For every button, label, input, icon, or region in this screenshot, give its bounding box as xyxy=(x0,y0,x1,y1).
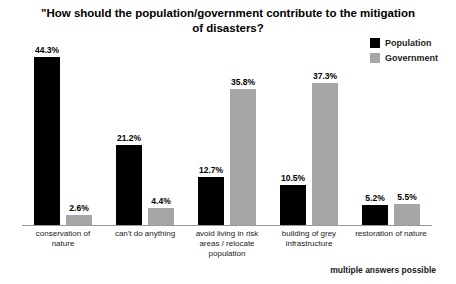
bar-group: 12.7% 35.8% xyxy=(186,36,268,225)
bar-population: 10.5% xyxy=(280,36,306,225)
bar-rect xyxy=(34,57,60,225)
bar-group: 44.3% 2.6% xyxy=(22,36,104,225)
bar-value-label: 35.8% xyxy=(231,77,255,87)
bar-value-label: 5.2% xyxy=(365,193,384,203)
bar-value-label: 12.7% xyxy=(199,165,223,175)
bar-government: 4.4% xyxy=(148,36,174,225)
bar-value-label: 10.5% xyxy=(281,173,305,183)
chart-annotation: multiple answers possible xyxy=(330,265,436,275)
bar-group: 10.5% 37.3% xyxy=(268,36,350,225)
x-tick-label: can't do anything xyxy=(104,229,186,259)
bar-population: 44.3% xyxy=(34,36,60,225)
bar-value-label: 5.5% xyxy=(397,192,416,202)
bar-group: 5.2% 5.5% xyxy=(350,36,432,225)
bar-population: 21.2% xyxy=(116,36,142,225)
bar-rect xyxy=(230,89,256,225)
bar-rect xyxy=(362,205,388,225)
bar-population: 12.7% xyxy=(198,36,224,225)
x-tick-label: building of grey infrastructure xyxy=(268,229,350,259)
x-axis-tick-labels: conservation of nature can't do anything… xyxy=(22,229,432,259)
bar-rect xyxy=(312,83,338,225)
bar-groups: 44.3% 2.6% 21.2% 4.4% xyxy=(22,36,432,225)
chart-title: "How should the population/government co… xyxy=(40,6,416,36)
bar-group: 21.2% 4.4% xyxy=(104,36,186,225)
x-axis-line xyxy=(22,225,432,226)
bar-value-label: 44.3% xyxy=(35,45,59,55)
plot-area: 44.3% 2.6% 21.2% 4.4% xyxy=(22,36,432,226)
x-tick-label: conservation of nature xyxy=(22,229,104,259)
bar-value-label: 21.2% xyxy=(117,133,141,143)
bar-rect xyxy=(280,185,306,225)
bar-rect xyxy=(116,145,142,225)
x-tick-label: restoration of nature xyxy=(350,229,432,259)
chart-container: "How should the population/government co… xyxy=(0,0,456,284)
bar-rect xyxy=(394,204,420,225)
bar-government: 35.8% xyxy=(230,36,256,225)
bar-government: 5.5% xyxy=(394,36,420,225)
bar-government: 2.6% xyxy=(66,36,92,225)
bar-value-label: 2.6% xyxy=(69,203,88,213)
bar-value-label: 4.4% xyxy=(151,196,170,206)
bar-rect xyxy=(66,215,92,225)
bar-value-label: 37.3% xyxy=(313,71,337,81)
bar-rect xyxy=(148,208,174,225)
bar-rect xyxy=(198,177,224,225)
x-tick-label: avoid living in risk areas / relocate po… xyxy=(186,229,268,259)
bar-government: 37.3% xyxy=(312,36,338,225)
bar-population: 5.2% xyxy=(362,36,388,225)
